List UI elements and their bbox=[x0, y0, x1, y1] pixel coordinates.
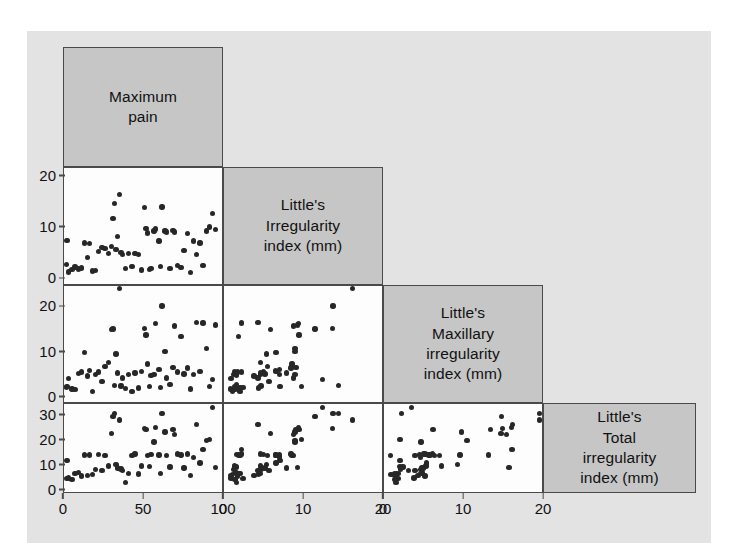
scatter-point bbox=[191, 238, 196, 243]
scatter-point bbox=[139, 267, 144, 272]
scatter-point bbox=[158, 471, 163, 476]
y-axis-tick-label: 10 bbox=[0, 456, 65, 473]
scatter-point bbox=[151, 372, 156, 377]
scatter-point bbox=[159, 411, 164, 416]
scatter-point bbox=[537, 417, 542, 422]
scatter-point bbox=[419, 465, 424, 470]
scatter-point bbox=[188, 473, 193, 478]
scatter-point bbox=[162, 349, 167, 354]
scatter-point bbox=[143, 332, 148, 337]
scatter-point bbox=[422, 451, 427, 456]
scatter-point bbox=[288, 451, 293, 456]
scatter-point bbox=[164, 375, 169, 380]
diagonal-cell-total: Little's Total irregularity index (mm) bbox=[543, 403, 696, 493]
scatter-point bbox=[424, 460, 429, 465]
scatter-point bbox=[158, 264, 163, 269]
scatter-point bbox=[459, 429, 464, 434]
scatterplot-matrix-grid: Maximum pain Little's Irregularity index… bbox=[63, 47, 696, 493]
y-axis-tick-label: 0 bbox=[0, 481, 65, 498]
scatter-point bbox=[102, 453, 107, 458]
scatter-point bbox=[66, 376, 71, 381]
scatter-point bbox=[455, 462, 460, 467]
scatter-point bbox=[330, 303, 335, 308]
scatter-point bbox=[500, 426, 505, 431]
x-axis-tick-label: 10 bbox=[295, 493, 312, 517]
scatter-point bbox=[406, 468, 411, 473]
scatter-point bbox=[126, 251, 131, 256]
x-axis-tick-label: 0 bbox=[59, 493, 67, 517]
scatter-point bbox=[284, 465, 289, 470]
scatter-point bbox=[498, 431, 503, 436]
scatter-point bbox=[266, 379, 271, 384]
scatter-point bbox=[82, 350, 87, 355]
scatter-point bbox=[234, 480, 239, 485]
scatter-point bbox=[330, 411, 335, 416]
scatterplot-matrix-figure: Maximum pain Little's Irregularity index… bbox=[0, 0, 733, 558]
scatter-point bbox=[93, 467, 98, 472]
scatter-point bbox=[239, 320, 244, 325]
scatter-point bbox=[439, 463, 444, 468]
scatter-point bbox=[90, 389, 95, 394]
y-axis-tick-label: 30 bbox=[0, 406, 65, 423]
scatter-point bbox=[153, 321, 158, 326]
scatter-point bbox=[350, 286, 355, 291]
scatter-point bbox=[185, 231, 190, 236]
scatter-point bbox=[110, 326, 115, 331]
scatter-point bbox=[200, 447, 205, 452]
scatter-point bbox=[79, 473, 84, 478]
scatter-point bbox=[273, 369, 278, 374]
scatter-point bbox=[156, 367, 161, 372]
y-axis-tick-label: 20 bbox=[0, 431, 65, 448]
x-axis-tick-label: 10 bbox=[455, 493, 472, 517]
scatter-point bbox=[312, 414, 317, 419]
scatter-point bbox=[136, 471, 141, 476]
scatter-point bbox=[64, 262, 69, 267]
scatter-point bbox=[197, 240, 202, 245]
scatter-point bbox=[96, 452, 101, 457]
scatter-point bbox=[115, 234, 120, 239]
scatter-point bbox=[258, 360, 263, 365]
scatter-point bbox=[207, 224, 212, 229]
scatter-point bbox=[117, 192, 122, 197]
scatter-point bbox=[437, 453, 442, 458]
scatter-point bbox=[464, 438, 469, 443]
scatter-point bbox=[64, 458, 69, 463]
scatter-point bbox=[87, 452, 92, 457]
scatter-point bbox=[167, 266, 172, 271]
scatter-point bbox=[145, 230, 150, 235]
scatter-point bbox=[291, 375, 296, 380]
diagonal-cell-pain: Maximum pain bbox=[63, 47, 223, 167]
scatter-point bbox=[336, 411, 341, 416]
scatter-point bbox=[112, 201, 117, 206]
scatter-point bbox=[117, 417, 122, 422]
scatter-point bbox=[430, 451, 435, 456]
scatter-point bbox=[132, 451, 137, 456]
scatter-point bbox=[412, 453, 417, 458]
scatter-point bbox=[210, 211, 215, 216]
scatter-point bbox=[457, 452, 462, 457]
scatter-point bbox=[109, 431, 114, 436]
scatter-point bbox=[210, 377, 215, 382]
scatter-point bbox=[236, 334, 241, 339]
scatter-point bbox=[409, 405, 414, 410]
scatter-point bbox=[164, 453, 169, 458]
scatter-panel-total-vs-pain bbox=[63, 403, 223, 493]
scatter-point bbox=[418, 471, 423, 476]
scatter-point bbox=[194, 320, 199, 325]
scatter-point bbox=[293, 365, 298, 370]
scatter-point bbox=[213, 465, 218, 470]
scatter-point bbox=[120, 375, 125, 380]
scatter-point bbox=[139, 463, 144, 468]
x-axis-tick-label: 0 bbox=[219, 493, 227, 517]
scatter-point bbox=[412, 468, 417, 473]
scatter-point bbox=[185, 365, 190, 370]
scatter-point bbox=[117, 286, 122, 291]
scatter-point bbox=[79, 369, 84, 374]
scatter-point bbox=[430, 427, 435, 432]
scatter-panel-maxillary-vs-pain bbox=[63, 285, 223, 403]
scatter-point bbox=[148, 452, 153, 457]
scatter-point bbox=[239, 369, 244, 374]
scatter-point bbox=[265, 364, 270, 369]
scatter-point bbox=[273, 460, 278, 465]
scatter-point bbox=[268, 327, 273, 332]
